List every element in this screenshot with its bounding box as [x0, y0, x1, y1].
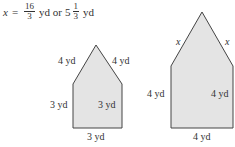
shapes-figure: [0, 0, 235, 147]
small-left-label: 3 yd: [50, 99, 68, 110]
large-upper-left-label: x: [176, 36, 180, 47]
small-upper-right-label: 4 yd: [112, 55, 130, 66]
small-right-label: 3 yd: [98, 99, 116, 110]
large-right-label: 4 yd: [211, 88, 229, 99]
large-bottom-label: 4 yd: [193, 131, 211, 142]
large-upper-right-label: x: [225, 36, 229, 47]
large-left-label: 4 yd: [147, 88, 165, 99]
small-upper-left-label: 4 yd: [58, 55, 76, 66]
large-pentagon: [171, 12, 233, 128]
small-bottom-label: 3 yd: [87, 131, 105, 142]
